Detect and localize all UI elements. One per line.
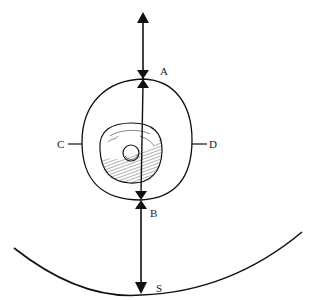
arrow-down-to-a xyxy=(137,70,149,79)
arrow-up-top xyxy=(137,12,149,23)
label-d: D xyxy=(209,139,217,150)
label-s: S xyxy=(156,283,162,294)
diagram-canvas xyxy=(0,0,313,300)
label-a: A xyxy=(160,66,168,77)
inner-body xyxy=(100,123,162,183)
label-b: B xyxy=(150,208,157,219)
arrow-down-to-s xyxy=(135,282,147,294)
arrow-down-to-b xyxy=(135,191,147,200)
label-c: C xyxy=(57,139,64,150)
